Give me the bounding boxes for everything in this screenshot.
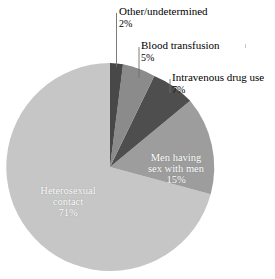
callout-percent-blood-transfusion: 5% [141,52,220,63]
callout-other-undetermined: Other/undetermined 2% [119,6,208,29]
slice-label-hetero-line1: Heterosexual [40,185,95,196]
slice-label-msm-line1: Men having [151,152,201,163]
callout-percent-intravenous-drug-use: 7% [172,84,264,95]
scan-artifact-speck [245,44,246,48]
pie-chart-figure: Other/undetermined 2% Blood transfusion … [0,0,275,279]
slice-label-msm-line2: sex with men [148,163,204,174]
slice-label-hetero-line2: contact [53,196,83,207]
callout-label-other-undetermined: Other/undetermined [119,5,208,17]
pie-chart-canvas [0,0,275,279]
slice-percent-msm: 15% [130,174,222,185]
slice-label-men-having-sex-with-men: Men having sex with men 15% [130,152,222,185]
callout-percent-other-undetermined: 2% [119,18,208,29]
slice-label-heterosexual-contact: Heterosexual contact 71% [22,185,114,218]
callout-label-intravenous-drug-use: Intravenous drug use [172,71,264,83]
slice-percent-hetero: 71% [22,207,114,218]
callout-blood-transfusion: Blood transfusion 5% [141,40,220,63]
callout-label-blood-transfusion: Blood transfusion [141,39,220,51]
callout-intravenous-drug-use: Intravenous drug use 7% [172,72,264,95]
